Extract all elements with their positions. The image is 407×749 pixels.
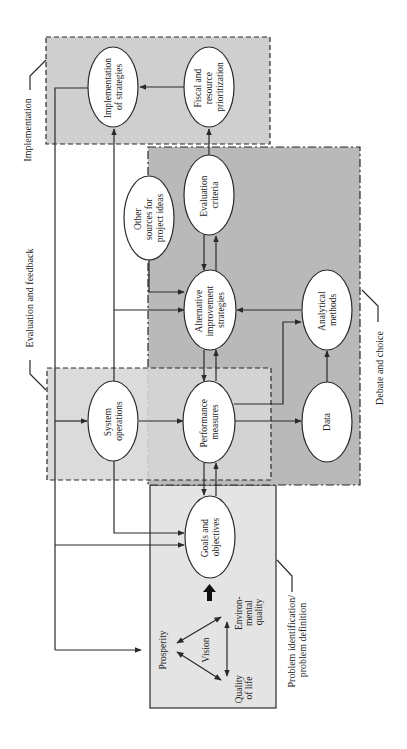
evaluation-feedback-region <box>47 368 271 480</box>
svg-text:System operations: System operations <box>103 401 124 441</box>
svg-text:Implementation of strate: Implementation of strategies <box>103 56 124 119</box>
implementation-region <box>46 37 270 144</box>
svg-text:Analytical methods: Analytical methods <box>317 289 338 331</box>
node-alternative-strategies: Alternative improvement strategies <box>184 270 236 350</box>
prosperity-label: Prosperity <box>158 630 168 669</box>
svg-text:Data: Data <box>322 412 332 431</box>
quality-of-life-label: Quality of life <box>234 673 254 704</box>
svg-text:Problem identification/: Problem identification/ problem definiti… <box>286 593 308 688</box>
node-implementation-of-strategies: Implementation of strategies <box>88 47 138 127</box>
vision-label: Vision <box>201 637 211 662</box>
node-other-sources: Other sources for project ideas <box>124 176 174 260</box>
node-evaluation-criteria: Evaluation criteria <box>184 155 234 235</box>
svg-text:Implementation: Implementation <box>22 98 33 161</box>
svg-text:Evaluation and feedback: Evaluation and feedback <box>24 249 35 348</box>
node-analytical-methods: Analytical methods <box>302 270 352 350</box>
implementation-label: Implementation <box>22 60 46 162</box>
node-performance-measures: Performance measures <box>183 381 235 463</box>
svg-text:Goals and objectives: Goals and objectives <box>200 517 221 558</box>
svg-text:Debate and choice: Debate and choice <box>374 331 385 405</box>
evaluation-feedback-label: Evaluation and feedback <box>24 249 46 390</box>
debate-choice-label: Debate and choice <box>362 290 385 405</box>
problem-definition-label: Problem identification/ problem definiti… <box>277 560 308 687</box>
node-system-operations: System operations <box>88 381 138 461</box>
planning-process-diagram: Implementation of strategies Fiscal and … <box>0 0 407 749</box>
environmental-quality-label: Environ- mental quality <box>234 594 264 630</box>
node-data: Data <box>302 382 352 462</box>
node-fiscal-prioritization: Fiscal and resource prioritization <box>184 47 234 127</box>
node-goals-objectives: Goals and objectives <box>185 496 235 578</box>
